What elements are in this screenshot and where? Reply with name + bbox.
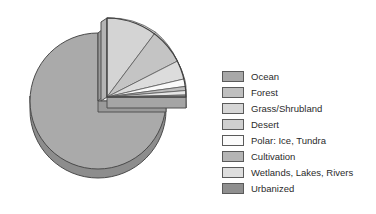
legend-label-urbanized: Urbanized [251,183,294,194]
legend-item-polar-ice-tundra: Polar: Ice, Tundra [222,132,376,148]
legend-item-wetlands-lakes-rivers: Wetlands, Lakes, Rivers [222,164,376,180]
legend-label-cultivation: Cultivation [251,151,295,162]
chart-legend: Ocean Forest Grass/Shrubland Desert Pola… [222,68,376,196]
legend-item-cultivation: Cultivation [222,148,376,164]
legend-item-desert: Desert [222,116,376,132]
exploded-slice-group [101,18,186,108]
legend-label-polar-ice-tundra: Polar: Ice, Tundra [251,135,326,146]
pie-chart-graphic [0,0,220,214]
legend-item-grass-shrubland: Grass/Shrubland [222,100,376,116]
legend-swatch-desert [222,119,244,130]
legend-swatch-ocean [222,71,244,82]
legend-swatch-polar-ice-tundra [222,135,244,146]
legend-label-ocean: Ocean [251,71,279,82]
exploded-group-base-wall [107,97,186,108]
legend-label-grass-shrubland: Grass/Shrubland [251,103,322,114]
chart-plot-area [0,0,220,214]
legend-item-forest: Forest [222,84,376,100]
legend-item-ocean: Ocean [222,68,376,84]
legend-swatch-urbanized [222,183,244,194]
exploded-group-left-wall [101,18,107,101]
pie-chart-figure: Ocean Forest Grass/Shrubland Desert Pola… [0,0,376,214]
legend-swatch-wetlands-lakes-rivers [222,167,244,178]
legend-label-forest: Forest [251,87,278,98]
legend-item-urbanized: Urbanized [222,180,376,196]
legend-swatch-grass-shrubland [222,103,244,114]
legend-swatch-forest [222,87,244,98]
legend-swatch-cultivation [222,151,244,162]
legend-label-desert: Desert [251,119,279,130]
legend-label-wetlands-lakes-rivers: Wetlands, Lakes, Rivers [251,167,353,178]
